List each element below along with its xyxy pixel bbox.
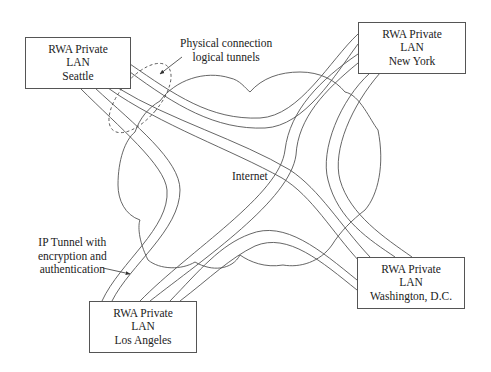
ip-tunnel-label: IP Tunnel with encryption and authentica… [38, 236, 107, 277]
lan-box-new-york: RWA Private LAN New York [358, 22, 466, 74]
physical-connection-line1: Physical connection [180, 37, 272, 51]
ip-tunnel-line2: encryption and [38, 250, 107, 264]
lan-los-angeles-line2: LAN [131, 320, 155, 334]
lan-new-york-line1: RWA Private [382, 28, 442, 42]
ip-tunnel-line3: authentication [38, 263, 107, 277]
lan-box-los-angeles: RWA Private LAN Los Angeles [89, 301, 197, 353]
lan-los-angeles-line3: Los Angeles [114, 334, 171, 348]
lan-new-york-line2: LAN [400, 41, 424, 55]
lan-seattle-line1: RWA Private [48, 43, 108, 57]
lan-washington-line1: RWA Private [381, 263, 441, 277]
physical-connection-line2: logical tunnels [180, 51, 272, 65]
lan-washington-line2: LAN [399, 276, 423, 290]
physical-connection-label: Physical connection logical tunnels [180, 37, 272, 64]
ip-tunnel-line1: IP Tunnel with [38, 236, 107, 250]
lan-box-seattle: RWA Private LAN Seattle [25, 37, 131, 89]
lan-new-york-line3: New York [389, 55, 436, 69]
ip-tunnel-arrow [103, 268, 130, 274]
lan-seattle-line3: Seattle [62, 70, 93, 84]
internet-label: Internet [232, 170, 268, 184]
lan-seattle-line2: LAN [66, 56, 90, 70]
physical-connection-arrow [160, 57, 182, 74]
lan-box-washington: RWA Private LAN Washington, D.C. [357, 257, 465, 309]
lan-los-angeles-line1: RWA Private [113, 307, 173, 321]
lan-washington-line3: Washington, D.C. [370, 290, 452, 304]
